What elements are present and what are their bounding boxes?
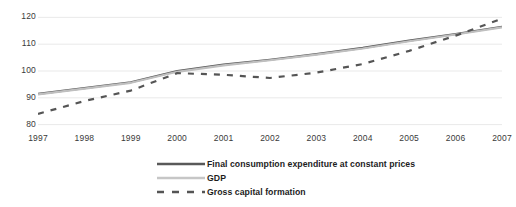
x-axis-tick-label: 1999	[111, 133, 151, 143]
y-axis-tick-label: 100	[2, 66, 36, 75]
x-axis-tick-label: 2000	[157, 133, 197, 143]
legend-label-final-consumption: Final consumption expenditure at constan…	[205, 159, 415, 169]
legend-item-gdp[interactable]: GDP	[157, 171, 497, 185]
x-axis-tick-label: 2004	[343, 133, 383, 143]
plot-svg	[38, 12, 502, 130]
dashed-dark-line-icon	[157, 187, 205, 197]
legend-label-gross-capital-formation: Gross capital formation	[205, 187, 306, 197]
legend-item-gross-capital-formation[interactable]: Gross capital formation	[157, 185, 497, 199]
y-axis-tick-label: 80	[2, 120, 36, 129]
series-group	[38, 19, 502, 114]
solid-dark-line-icon	[157, 159, 205, 169]
y-axis-tick-label: 90	[2, 93, 36, 102]
plot-area	[38, 12, 502, 130]
legend-label-gdp: GDP	[205, 173, 226, 183]
x-axis-tick-label: 2007	[482, 133, 516, 143]
gridlines	[38, 17, 502, 124]
chart-legend: Final consumption expenditure at constan…	[157, 157, 497, 199]
solid-light-line-icon	[157, 173, 205, 183]
y-axis-tick-label: 120	[2, 12, 36, 21]
series-line	[38, 19, 502, 114]
x-axis-tick-label: 2002	[250, 133, 290, 143]
x-axis-tick-label: 2003	[296, 133, 336, 143]
x-axis-tick-label: 2006	[436, 133, 476, 143]
x-axis: 1997199819992000200120022003200420052006…	[38, 133, 502, 147]
x-axis-tick-label: 2001	[204, 133, 244, 143]
x-axis-tick-label: 1998	[64, 133, 104, 143]
y-axis: 8090100110120	[0, 0, 36, 140]
y-axis-tick-label: 110	[2, 39, 36, 48]
x-axis-tick-label: 1997	[18, 133, 58, 143]
legend-item-final-consumption[interactable]: Final consumption expenditure at constan…	[157, 157, 497, 171]
x-axis-tick-label: 2005	[389, 133, 429, 143]
